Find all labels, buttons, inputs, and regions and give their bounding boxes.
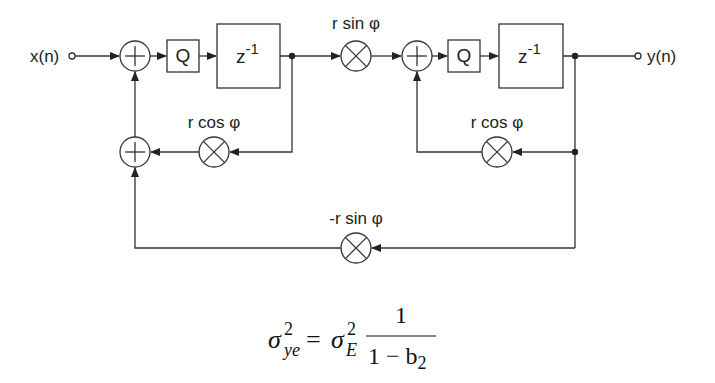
input-terminal	[69, 53, 75, 59]
block-diagram: x(n) y(n) Q Q z-1 z-1 r sin φ r cos φ r …	[0, 0, 715, 383]
delay-2-label: z-1	[518, 40, 541, 67]
coef-neg-r-sin-label: -r sin φ	[329, 209, 383, 228]
adder-1	[120, 41, 150, 71]
svg-text:σ: σ	[331, 325, 345, 354]
multiplier-neg-r-sin	[341, 233, 371, 263]
adder-3	[120, 137, 150, 167]
svg-text:1: 1	[395, 302, 407, 328]
svg-text:2: 2	[284, 319, 293, 339]
coef-r-cos-right-label: r cos φ	[471, 113, 524, 132]
svg-text:E: E	[345, 340, 357, 360]
quantizer-1-label: Q	[176, 45, 191, 66]
adder-2	[402, 41, 432, 71]
noise-variance-formula: σ 2 ye = σ 2 E 1 1 − b2	[268, 302, 436, 373]
multiplier-r-cos-left	[199, 137, 229, 167]
svg-text:1 − b2: 1 − b2	[368, 343, 427, 373]
junction-dot-3	[572, 149, 578, 155]
input-label: x(n)	[30, 47, 59, 66]
coef-r-cos-left-label: r cos φ	[188, 113, 241, 132]
junction-dot-1	[289, 53, 295, 59]
svg-text:2: 2	[347, 319, 356, 339]
quantizer-2-label: Q	[457, 45, 472, 66]
output-terminal	[635, 53, 641, 59]
multiplier-r-cos-right	[482, 137, 512, 167]
svg-text:ye: ye	[282, 340, 300, 360]
coef-r-sin-label: r sin φ	[332, 14, 380, 33]
delay-1-label: z-1	[236, 40, 259, 67]
svg-text:=: =	[306, 325, 321, 354]
output-label: y(n)	[647, 47, 676, 66]
junction-dot-2	[572, 53, 578, 59]
svg-text:σ: σ	[268, 325, 282, 354]
multiplier-r-sin	[341, 41, 371, 71]
